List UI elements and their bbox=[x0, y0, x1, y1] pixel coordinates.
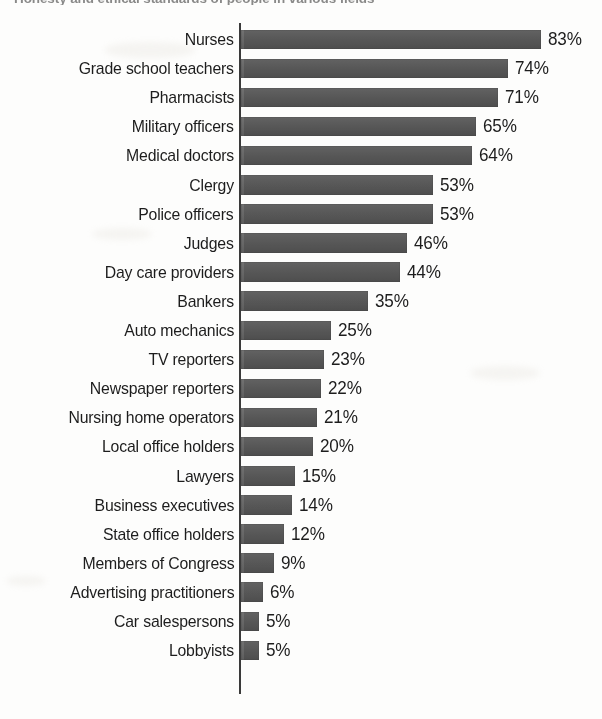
bar-row: Bankers35% bbox=[0, 287, 602, 316]
bar-category-label: Grade school teachers bbox=[79, 54, 234, 83]
bar-fill bbox=[241, 379, 321, 399]
bar bbox=[241, 408, 317, 428]
bar-category-label: Local office holders bbox=[102, 432, 234, 461]
bar-fill bbox=[241, 408, 317, 428]
bar-category-label: Medical doctors bbox=[126, 141, 234, 170]
bar-row: Business executives14% bbox=[0, 491, 602, 520]
bar-row: Advertising practitioners6% bbox=[0, 578, 602, 607]
bar bbox=[241, 321, 331, 341]
bar-value-label: 6% bbox=[270, 578, 294, 607]
bar-value-label: 25% bbox=[338, 316, 372, 345]
bar-row: Lobbyists5% bbox=[0, 636, 602, 665]
bar-category-label: Bankers bbox=[177, 287, 234, 316]
bar bbox=[241, 291, 368, 311]
bar bbox=[241, 641, 259, 661]
bar-row: Military officers65% bbox=[0, 112, 602, 141]
bar-row: Clergy53% bbox=[0, 171, 602, 200]
bar bbox=[241, 466, 295, 486]
bar-row: Day care providers44% bbox=[0, 258, 602, 287]
bar-fill bbox=[241, 466, 295, 486]
bar-category-label: Police officers bbox=[139, 200, 234, 229]
bar-category-label: Judges bbox=[184, 229, 234, 258]
bar-fill bbox=[241, 262, 400, 282]
plot-area: Nurses83%Grade school teachers74%Pharmac… bbox=[0, 21, 602, 701]
bar-value-label: 46% bbox=[414, 229, 448, 258]
bar-fill bbox=[241, 30, 541, 50]
bar-category-label: Day care providers bbox=[105, 258, 234, 287]
bar-row: Car salespersons5% bbox=[0, 607, 602, 636]
bar-fill bbox=[241, 175, 433, 195]
bar-value-label: 83% bbox=[548, 25, 582, 54]
bar-row: Nursing home operators21% bbox=[0, 403, 602, 432]
chart-title: Honesty and ethical standards of people … bbox=[0, 0, 602, 5]
bar-fill bbox=[241, 437, 313, 457]
bar-value-label: 71% bbox=[505, 83, 539, 112]
bar bbox=[241, 612, 259, 632]
bar-fill bbox=[241, 233, 407, 253]
bar bbox=[241, 233, 407, 253]
bar bbox=[241, 146, 472, 166]
bar bbox=[241, 379, 321, 399]
bar-row: Grade school teachers74% bbox=[0, 54, 602, 83]
bar-value-label: 5% bbox=[266, 607, 290, 636]
bar bbox=[241, 175, 433, 195]
bar-value-label: 53% bbox=[440, 200, 474, 229]
bar-fill bbox=[241, 59, 508, 79]
bar bbox=[241, 495, 292, 515]
bar-row: Medical doctors64% bbox=[0, 141, 602, 170]
bar-row: State office holders12% bbox=[0, 520, 602, 549]
bar-category-label: Nursing home operators bbox=[68, 403, 234, 432]
bar-chart-figure: Honesty and ethical standards of people … bbox=[0, 0, 602, 719]
bar bbox=[241, 437, 313, 457]
bar-value-label: 64% bbox=[479, 141, 513, 170]
bar-fill bbox=[241, 350, 324, 370]
bar-category-label: Car salespersons bbox=[114, 607, 234, 636]
bar-category-label: Business executives bbox=[94, 491, 234, 520]
bar-value-label: 12% bbox=[291, 520, 325, 549]
bar-category-label: Auto mechanics bbox=[124, 316, 234, 345]
bar-category-label: State office holders bbox=[103, 520, 234, 549]
bar-value-label: 5% bbox=[266, 636, 290, 665]
bar-fill bbox=[241, 146, 472, 166]
bar-category-label: Clergy bbox=[189, 171, 234, 200]
bar-row: Nurses83% bbox=[0, 25, 602, 54]
bar bbox=[241, 262, 400, 282]
bar-category-label: Members of Congress bbox=[82, 549, 234, 578]
bar bbox=[241, 524, 284, 544]
bar-row: TV reporters23% bbox=[0, 345, 602, 374]
bar-fill bbox=[241, 321, 331, 341]
bar-row: Police officers53% bbox=[0, 200, 602, 229]
bar-value-label: 14% bbox=[299, 491, 333, 520]
bar-fill bbox=[241, 291, 368, 311]
bar-value-label: 44% bbox=[407, 258, 441, 287]
bar-fill bbox=[241, 204, 433, 224]
bar-fill bbox=[241, 495, 292, 515]
bar-fill bbox=[241, 117, 476, 137]
bar-category-label: Advertising practitioners bbox=[70, 578, 234, 607]
bar bbox=[241, 88, 498, 108]
bar-fill bbox=[241, 524, 284, 544]
bar-category-label: Lobbyists bbox=[169, 636, 234, 665]
bar-value-label: 53% bbox=[440, 171, 474, 200]
bar-value-label: 74% bbox=[515, 54, 549, 83]
bar-fill bbox=[241, 88, 498, 108]
bar-fill bbox=[241, 641, 259, 661]
bar-row: Lawyers15% bbox=[0, 462, 602, 491]
bar-value-label: 15% bbox=[302, 462, 336, 491]
bar-value-label: 9% bbox=[281, 549, 305, 578]
bar-value-label: 21% bbox=[324, 403, 358, 432]
bar-category-label: Military officers bbox=[132, 112, 234, 141]
bar-value-label: 35% bbox=[375, 287, 409, 316]
bar bbox=[241, 553, 274, 573]
bar-row: Auto mechanics25% bbox=[0, 316, 602, 345]
bar-category-label: Newspaper reporters bbox=[90, 374, 234, 403]
bar-category-label: Pharmacists bbox=[149, 83, 234, 112]
bar-value-label: 20% bbox=[320, 432, 354, 461]
bar-row: Members of Congress9% bbox=[0, 549, 602, 578]
bar bbox=[241, 582, 263, 602]
bar bbox=[241, 350, 324, 370]
bar-row: Judges46% bbox=[0, 229, 602, 258]
bar-row: Local office holders20% bbox=[0, 432, 602, 461]
bar-value-label: 65% bbox=[483, 112, 517, 141]
bar-category-label: Lawyers bbox=[176, 462, 234, 491]
